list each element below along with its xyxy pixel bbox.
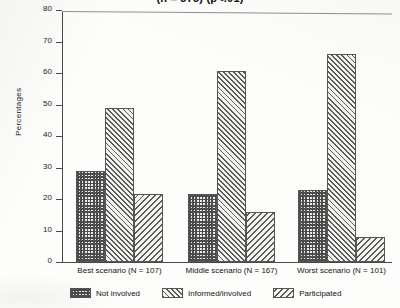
bar-group <box>298 10 385 262</box>
legend-item: Not involved <box>70 288 140 298</box>
bar <box>105 108 134 262</box>
legend-swatch-icon <box>273 288 294 298</box>
bar <box>217 71 246 262</box>
bar <box>76 171 105 262</box>
y-axis-line <box>62 11 63 263</box>
y-tick-30: 30 <box>56 168 62 169</box>
y-tick-10: 10 <box>56 231 62 232</box>
chart-title: (n = 375) (p<.01) <box>0 0 400 4</box>
legend-swatch-icon <box>70 288 91 298</box>
bar-group <box>188 10 275 262</box>
y-tick-80: 80 <box>56 10 62 11</box>
legend-label: Participated <box>299 289 341 298</box>
y-tick-label: 50 <box>43 99 52 108</box>
y-tick-label: 10 <box>43 225 52 234</box>
y-tick-label: 70 <box>43 36 52 45</box>
legend-label: Informed/involved <box>188 289 251 298</box>
y-tick-label: 0 <box>48 256 52 265</box>
y-tick-70: 70 <box>56 42 62 43</box>
legend-item: Informed/involved <box>162 288 251 298</box>
legend: Not involvedInformed/involvedParticipate… <box>70 288 341 298</box>
bar <box>356 237 385 262</box>
y-tick-60: 60 <box>56 73 62 74</box>
bar-group <box>76 10 163 262</box>
y-tick-50: 50 <box>56 105 62 106</box>
bar <box>327 54 356 262</box>
legend-label: Not involved <box>96 289 140 298</box>
legend-swatch-icon <box>162 288 183 298</box>
y-tick-40: 40 <box>56 136 62 137</box>
x-axis-label: Worst scenario (N = 101) <box>282 266 400 275</box>
bar <box>298 190 327 262</box>
y-tick-label: 80 <box>43 4 52 13</box>
x-axis-label: Middle scenario (N = 167) <box>172 266 292 275</box>
y-axis-title: Percentages <box>14 88 23 136</box>
x-axis-label: Best scenario (N = 107) <box>60 266 180 275</box>
x-axis-line <box>62 262 392 263</box>
y-tick-label: 20 <box>43 193 52 202</box>
bar <box>246 212 275 262</box>
bar <box>134 194 163 262</box>
y-tick-label: 40 <box>43 130 52 139</box>
y-tick-label: 30 <box>43 162 52 171</box>
y-tick-0: 0 <box>56 262 62 263</box>
y-tick-20: 20 <box>56 199 62 200</box>
bar <box>188 194 217 262</box>
y-tick-label: 60 <box>43 67 52 76</box>
plot-area: 01020304050607080 <box>62 11 392 263</box>
legend-item: Participated <box>273 288 341 298</box>
